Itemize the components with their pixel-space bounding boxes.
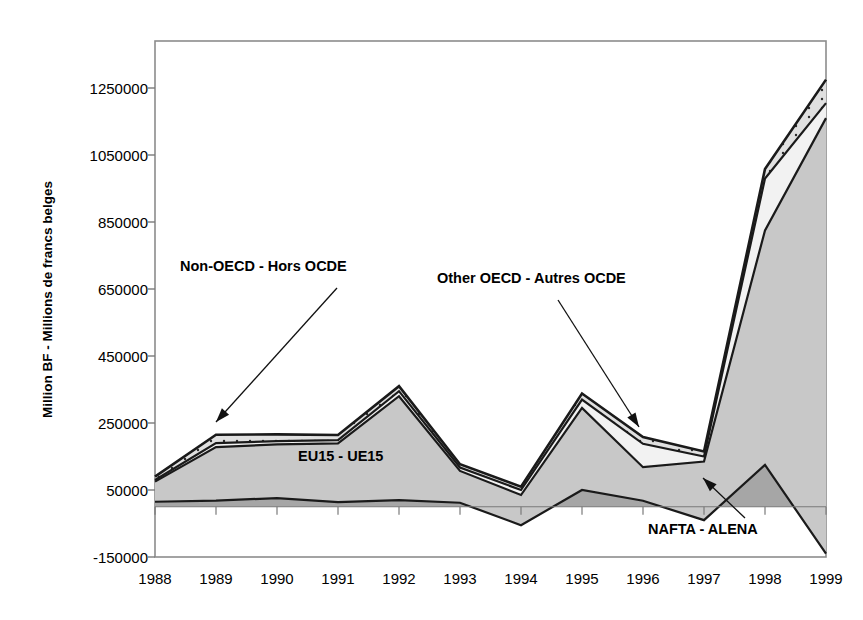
y-tick-1250000: 1250000 <box>52 80 148 97</box>
y-axis-tick-labels: 1250000 1050000 850000 650000 450000 250… <box>44 0 148 620</box>
y-tick-50000: 50000 <box>52 482 148 499</box>
y-tick-450000: 450000 <box>52 348 148 365</box>
y-tick-650000: 650000 <box>52 281 148 298</box>
x-tick-1999: 1999 <box>796 570 856 587</box>
annotation-label-eu15: EU15 - UE15 <box>298 448 383 464</box>
y-tick-1050000: 1050000 <box>52 147 148 164</box>
x-tick-1992: 1992 <box>369 570 429 587</box>
x-tick-1994: 1994 <box>491 570 551 587</box>
x-tick-1998: 1998 <box>735 570 795 587</box>
x-tick-1995: 1995 <box>552 570 612 587</box>
x-tick-1996: 1996 <box>613 570 673 587</box>
x-tick-1997: 1997 <box>674 570 734 587</box>
x-tick-1988: 1988 <box>125 570 185 587</box>
annotation-label-nafta: NAFTA - ALENA <box>648 521 758 537</box>
x-tick-1990: 1990 <box>247 570 307 587</box>
y-tick-250000: 250000 <box>52 415 148 432</box>
y-tick-850000: 850000 <box>52 214 148 231</box>
x-tick-1989: 1989 <box>186 570 246 587</box>
chart-container: Million BF - Millions de francs belges 1… <box>0 0 863 620</box>
y-tick--150000: -150000 <box>52 549 148 566</box>
x-tick-1993: 1993 <box>430 570 490 587</box>
annotation-label-other-oecd: Other OECD - Autres OCDE <box>437 270 626 286</box>
annotation-label-non-oecd: Non-OECD - Hors OCDE <box>180 258 347 274</box>
x-tick-1991: 1991 <box>308 570 368 587</box>
